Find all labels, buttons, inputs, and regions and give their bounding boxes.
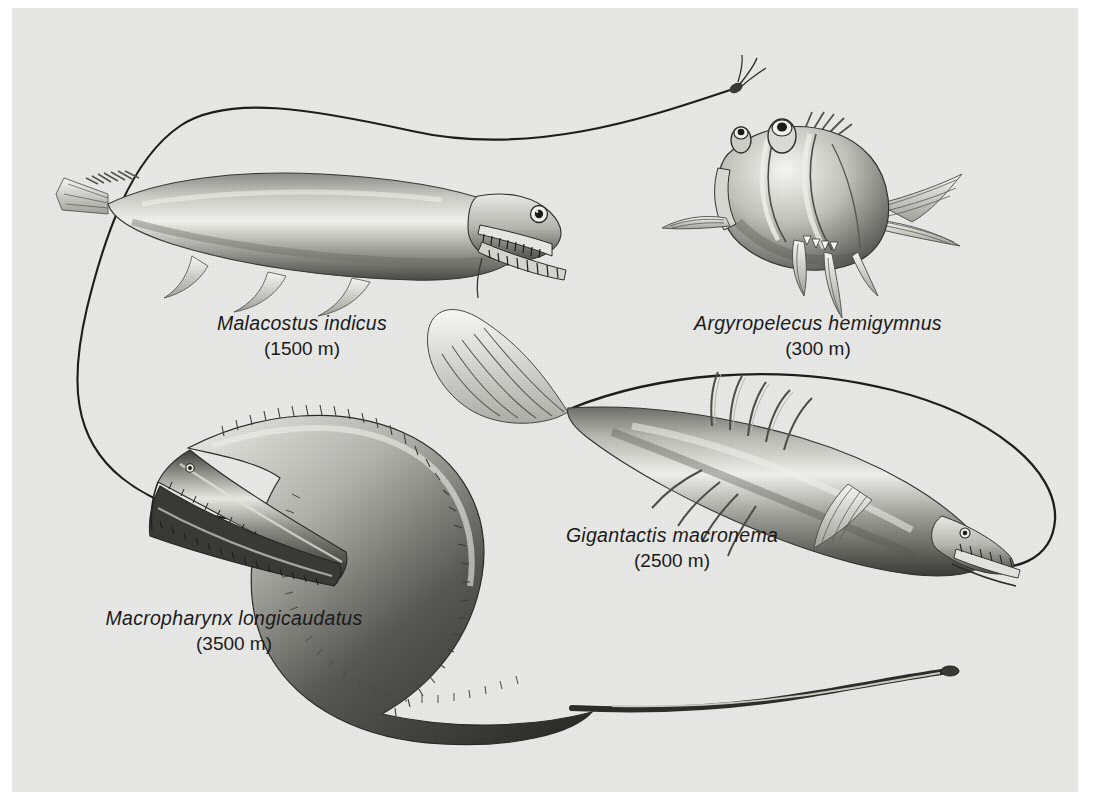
macropharynx-eye: [186, 464, 194, 472]
fish-argyropelecus-hemigymnus: [662, 112, 962, 318]
malacostus-eye: [531, 206, 548, 223]
gigantactis-eye: [960, 528, 970, 538]
label-macropharynx-depth: (3500 m): [34, 631, 434, 656]
label-argyropelecus-name: Argyropelecus hemigymnus: [694, 312, 942, 334]
label-argyropelecus-depth: (300 m): [618, 336, 1018, 361]
deep-sea-fish-illustration: [12, 8, 1078, 792]
label-gigantactis-depth: (2500 m): [462, 548, 882, 573]
argyropelecus-caudal-fin: [878, 174, 962, 246]
label-macropharynx: Macropharynx longicaudatus (3500 m): [34, 606, 434, 656]
figure-canvas: Malacostus indicus (1500 m) Argyropelecu…: [12, 8, 1078, 792]
label-gigantactis: Gigantactis macronema (2500 m): [462, 523, 882, 573]
illicium-lure-tip: [728, 55, 766, 95]
label-malacostus-depth: (1500 m): [12, 336, 592, 361]
illustration-plate: Malacostus indicus (1500 m) Argyropelecu…: [0, 0, 1099, 809]
label-malacostus-name: Malacostus indicus: [217, 312, 387, 334]
label-macropharynx-name: Macropharynx longicaudatus: [105, 607, 362, 629]
label-gigantactis-name: Gigantactis macronema: [566, 524, 778, 546]
argyropelecus-pectoral-fin: [662, 216, 730, 228]
malacostus-caudal-fin: [56, 178, 108, 214]
label-argyropelecus: Argyropelecus hemigymnus (300 m): [618, 311, 1018, 361]
fish-malacostus-indicus: [56, 171, 566, 316]
label-malacostus: Malacostus indicus (1500 m): [12, 311, 592, 361]
